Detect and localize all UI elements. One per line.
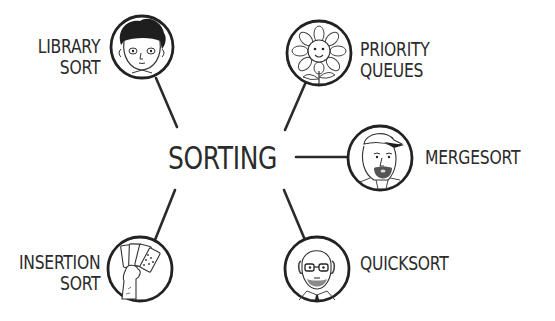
center-topic-sorting: SORTING <box>168 141 277 175</box>
hand-holding-cards-icon <box>108 237 172 301</box>
man-with-cap-portrait-icon <box>348 126 412 190</box>
label-line: SORT <box>18 273 100 294</box>
label-line: INSERTION <box>18 252 100 273</box>
node-label-insertion-sort: INSERTION SORT <box>18 252 100 294</box>
label-line: LIBRARY <box>38 36 100 57</box>
connector-quicksort <box>284 190 305 240</box>
sunflower-icon <box>287 21 351 85</box>
connector-library-sort <box>156 78 177 127</box>
label-line: QUICKSORT <box>360 253 449 274</box>
label-line: PRIORITY <box>360 39 430 60</box>
node-label-quicksort: QUICKSORT <box>360 253 449 274</box>
node-label-library-sort: LIBRARY SORT <box>38 36 100 78</box>
node-label-priority-queues: PRIORITY QUEUES <box>360 39 430 81</box>
bald-man-glasses-portrait-icon <box>285 237 349 301</box>
label-line: QUEUES <box>360 60 430 81</box>
label-line: SORT <box>38 57 100 78</box>
boy-portrait-icon <box>111 16 173 78</box>
node-label-mergesort: MERGESORT <box>425 147 520 168</box>
connector-priority-queues <box>285 84 305 130</box>
connector-insertion-sort <box>155 190 175 240</box>
label-line: MERGESORT <box>425 147 520 168</box>
sorting-mind-map: SORTING LIBRARY SORT PRIORITY QUEUES MER… <box>0 0 555 321</box>
